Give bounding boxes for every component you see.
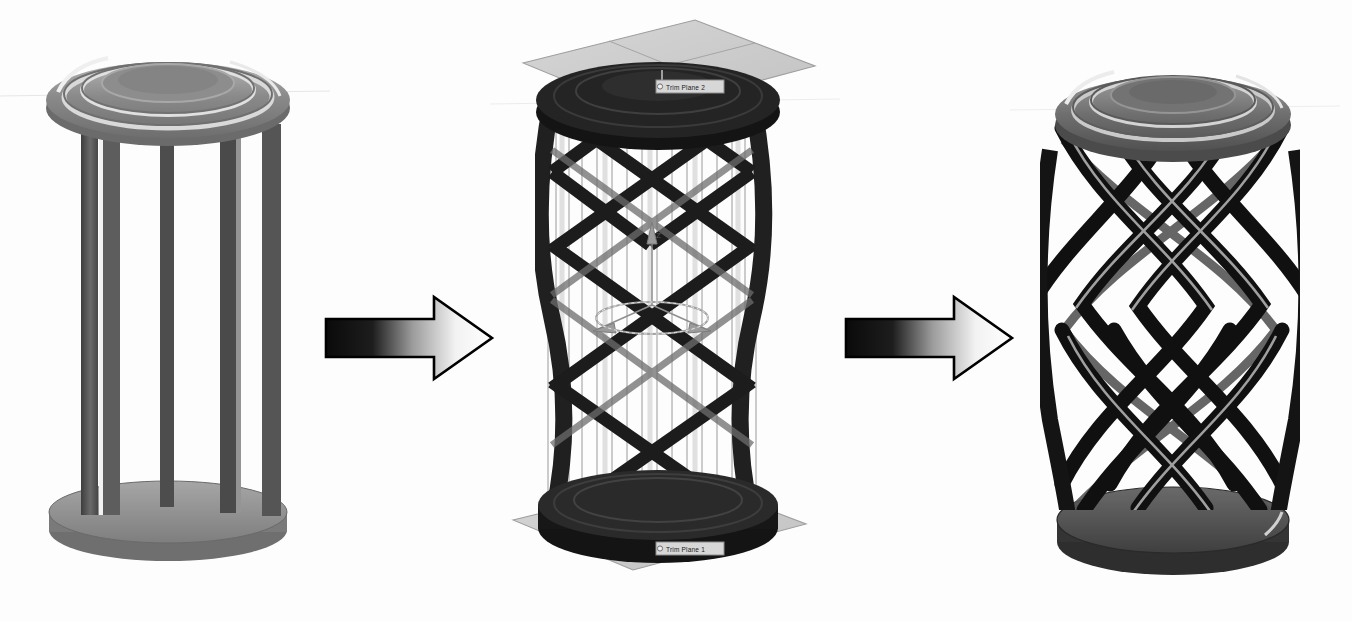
arrow-shape — [846, 297, 1012, 379]
helical-lattice-ribs — [1034, 120, 1310, 520]
trim-plane-1-callout[interactable]: Trim Plane 1 — [656, 542, 724, 555]
stage1-top-cap-disc — [46, 58, 290, 146]
stage3-top-cap-disc — [1055, 72, 1291, 162]
transition-arrow-1 — [322, 292, 497, 384]
trim-plane-1-label-text: Trim Plane 1 — [666, 546, 705, 553]
arrow-shape — [326, 297, 492, 379]
triad-z-label: Z — [656, 231, 661, 240]
stage-3-twisted-helical-column — [1010, 0, 1340, 621]
trim-plane-2-label-text: Trim Plane 2 — [666, 84, 705, 91]
stage-1-straight-post-column — [0, 0, 330, 621]
stage-2-wireframe-lattice: Z Trim Plane 2 Trim Plane 1 — [490, 0, 840, 621]
stage2-top-cap-disc — [536, 62, 780, 150]
stage1-vertical-posts — [81, 124, 281, 516]
transition-arrow-2 — [842, 292, 1017, 384]
